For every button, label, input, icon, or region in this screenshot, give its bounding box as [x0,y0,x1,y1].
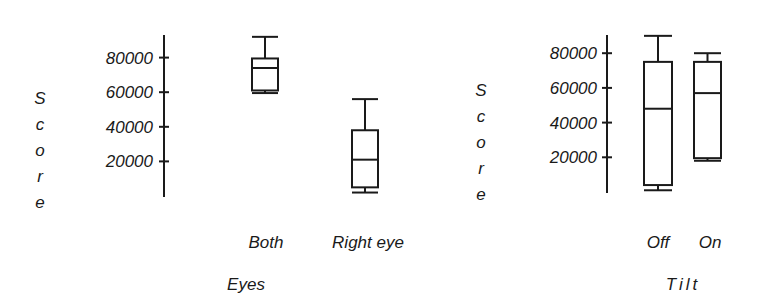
svg-text:e: e [476,185,485,204]
boxplot-panel-eyes: 20000400006000080000ScoreBothRight eyeEy… [34,35,404,294]
boxplot-figure: 20000400006000080000ScoreBothRight eyeEy… [0,0,758,304]
y-tick-label: 80000 [106,49,154,68]
y-tick-label: 60000 [550,79,598,98]
category-label: Right eye [332,233,404,252]
category-label: Both [249,233,284,252]
category-label: On [699,233,722,252]
svg-text:e: e [35,193,44,212]
y-tick-label: 40000 [106,118,154,137]
y-tick-label: 20000 [105,152,154,171]
y-tick-label: 40000 [550,114,598,133]
category-label: Off [647,233,672,252]
boxplot-panel-tilt: 20000400006000080000ScoreOffOnTilt [475,35,721,294]
x-axis-label: Eyes [227,275,265,294]
svg-text:o: o [476,133,485,152]
svg-text:c: c [36,115,45,134]
box-right-eye [352,99,378,192]
svg-text:S: S [475,81,487,100]
svg-text:r: r [478,159,485,178]
y-tick-label: 80000 [550,44,598,63]
x-axis-label: Tilt [666,275,701,294]
y-tick-label: 20000 [549,148,598,167]
box-on [694,53,721,161]
svg-text:c: c [477,107,486,126]
y-axis-label: Score [34,89,46,212]
box-both [252,37,278,93]
y-axis-label: Score [475,81,487,204]
box-off [644,36,672,190]
y-tick-label: 60000 [106,83,154,102]
svg-text:S: S [34,89,46,108]
svg-text:r: r [37,167,44,186]
svg-text:o: o [35,141,44,160]
